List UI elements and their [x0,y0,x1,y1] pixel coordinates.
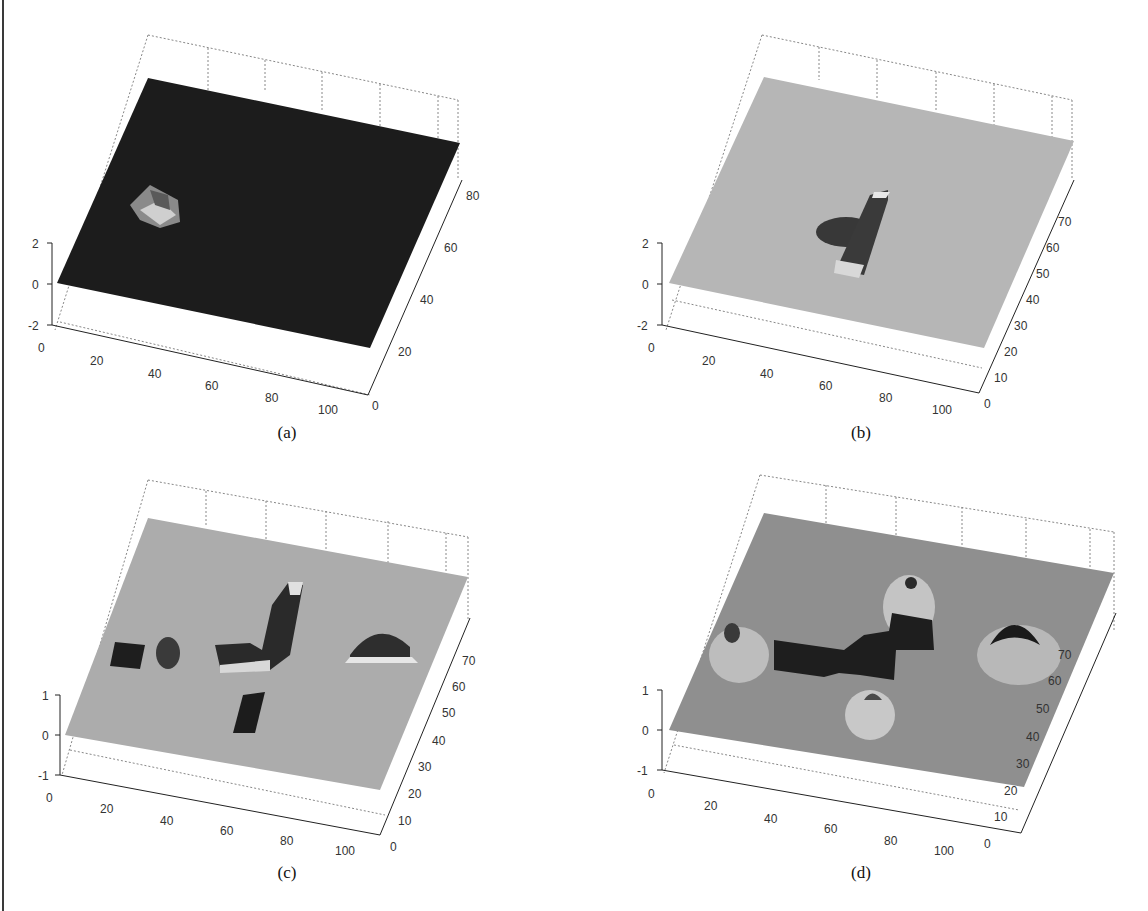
panel-caption: (c) [0,863,574,883]
y-tick: 60 [444,241,458,255]
z-tick: 1 [42,689,49,703]
z-tick: 2 [642,237,649,251]
x-tick: 40 [760,367,774,381]
z-tick: 0 [642,278,649,292]
z-tick: 0 [32,278,39,292]
panel-a: 2 0 -2 0 20 40 60 80 100 0 20 40 60 80 (… [0,0,574,455]
y-tick: 30 [1014,319,1028,333]
surface-plot-a: 2 0 -2 0 20 40 60 80 100 0 20 40 60 80 [0,0,574,455]
x-tick: 100 [335,844,355,858]
y-tick: 40 [432,734,446,748]
x-tick: 60 [819,379,833,393]
x-tick: 100 [934,844,954,858]
y-tick: 80 [466,189,480,203]
z-tick: -1 [38,769,49,783]
z-tick: -2 [28,319,39,333]
y-tick: 50 [1036,702,1050,716]
y-tick: 70 [462,654,476,668]
x-tick: 100 [318,403,338,417]
z-tick: 0 [42,729,49,743]
y-tick: 70 [1058,648,1072,662]
x-tick: 40 [160,814,174,828]
x-tick: 60 [824,822,838,836]
surface-a [57,78,460,348]
x-tick: 20 [702,354,716,368]
x-tick: 80 [879,391,893,405]
y-tick: 20 [398,345,412,359]
y-tick: 60 [1046,241,1060,255]
x-tick: 80 [265,391,279,405]
x-tick: 20 [100,802,114,816]
y-tick: 20 [408,787,422,801]
surface-plot-c: 1 0 -1 0 20 40 60 80 100 0 10 20 30 40 5… [0,455,574,911]
x-tick: 0 [46,791,53,805]
y-tick: 30 [418,760,432,774]
y-tick: 0 [390,840,397,854]
y-tick: 50 [1036,267,1050,281]
y-tick: 10 [398,814,412,828]
x-tick: 0 [38,341,45,355]
x-tick: 20 [90,354,104,368]
z-tick: 0 [642,724,649,738]
y-tick: 10 [994,371,1008,385]
y-tick: 60 [1048,674,1062,688]
y-tick: 20 [1004,784,1018,798]
y-tick: 40 [420,293,434,307]
y-tick: 0 [372,399,379,413]
y-tick: 50 [442,706,456,720]
x-tick: 100 [932,403,952,417]
y-tick: 40 [1026,293,1040,307]
y-tick: 0 [984,837,991,851]
x-tick: 20 [704,799,718,813]
x-tick: 40 [764,812,778,826]
z-tick: -2 [637,319,648,333]
z-tick: -1 [637,764,648,778]
x-tick: 0 [648,787,655,801]
x-tick: 60 [205,379,219,393]
surface-plot-b: 2 0 -2 0 20 40 60 80 100 0 10 20 30 40 5… [574,0,1148,455]
x-tick: 80 [884,834,898,848]
y-tick: 40 [1026,730,1040,744]
panel-caption: (b) [574,423,1148,443]
x-tick: 80 [280,834,294,848]
y-tick: 30 [1016,757,1030,771]
y-tick: 20 [1004,345,1018,359]
x-tick: 40 [148,367,162,381]
y-tick: 10 [994,810,1008,824]
x-tick: 60 [220,824,234,838]
panel-caption: (d) [574,863,1148,883]
y-tick: 0 [984,397,991,411]
panel-b: 2 0 -2 0 20 40 60 80 100 0 10 20 30 40 5… [574,0,1148,455]
z-tick: 2 [32,237,39,251]
x-tick: 0 [648,341,655,355]
panel-c: 1 0 -1 0 20 40 60 80 100 0 10 20 30 40 5… [0,455,574,911]
y-tick: 60 [452,680,466,694]
panel-caption: (a) [0,423,574,443]
panel-d: 1 0 -1 0 20 40 60 80 100 0 10 20 30 40 5… [574,455,1148,911]
surface-plot-d: 1 0 -1 0 20 40 60 80 100 0 10 20 30 40 5… [574,455,1148,911]
y-tick: 70 [1058,215,1072,229]
z-tick: 1 [642,684,649,698]
